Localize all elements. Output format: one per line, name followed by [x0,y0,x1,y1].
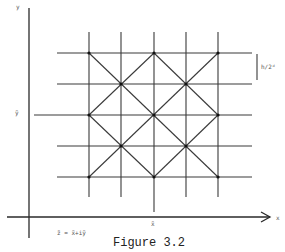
x-tilde-label: x̃ [151,220,155,227]
node [152,175,155,178]
y-tilde-label: ỹ [15,109,19,117]
node [216,175,219,178]
node [152,113,155,116]
figure-caption: Figure 3.2 [113,236,185,250]
node [119,144,122,147]
formula-label: z̃ = x̃+iỹ [57,229,86,237]
node [184,82,187,85]
y-axis-label: y [16,3,20,11]
node [87,51,90,54]
figure-diagram: h/2ᵈ y x ỹ x̃ z̃ = x̃+iỹ Figure 3.2 [0,0,285,252]
node [216,113,219,116]
node [184,144,187,147]
node [87,175,90,178]
spacing-bracket: h/2ᵈ [257,54,275,80]
x-axis-label: x [276,214,280,221]
node [216,51,219,54]
spacing-label: h/2ᵈ [261,63,275,70]
axes [7,8,270,238]
node [152,51,155,54]
node [119,82,122,85]
node [87,113,90,116]
grid-vertical-lines [89,32,218,212]
